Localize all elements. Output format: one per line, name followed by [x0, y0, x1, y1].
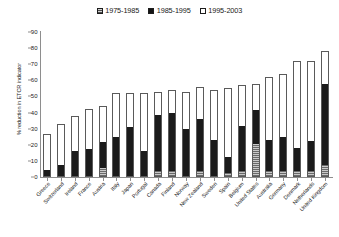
bar-segment-1985-1995 — [322, 84, 328, 165]
stacked-bar[interactable] — [293, 61, 301, 177]
stacked-bar[interactable] — [196, 87, 204, 177]
stacked-bar[interactable] — [126, 93, 134, 177]
bar-segment-1985-1995 — [239, 126, 245, 172]
bar-segment-1985-1995 — [197, 119, 203, 171]
bar-slot — [123, 32, 137, 177]
bar-slot — [110, 32, 124, 177]
y-axis-tick-mark — [28, 80, 31, 81]
stacked-bar[interactable] — [252, 84, 260, 177]
bar-slot — [54, 32, 68, 177]
bar-segment-1995-2003 — [211, 91, 217, 140]
bar-slot — [263, 32, 277, 177]
bar-slot — [221, 32, 235, 177]
stacked-bar[interactable] — [71, 116, 79, 177]
bar-segment-1995-2003 — [322, 52, 328, 84]
bar-segment-1975-1985 — [155, 171, 161, 176]
stacked-bar[interactable] — [321, 51, 329, 177]
y-axis-tick-label: 40 — [31, 110, 38, 116]
bar-segment-1985-1995 — [169, 113, 175, 171]
stacked-bar[interactable] — [112, 93, 120, 177]
bar-segment-1985-1995 — [225, 157, 231, 173]
stacked-bar[interactable] — [224, 88, 232, 177]
bar-segment-1995-2003 — [169, 91, 175, 113]
bar-segment-1985-1995 — [211, 140, 217, 176]
y-axis-tick-label: 30 — [31, 126, 38, 132]
grey-hatch-swatch-icon — [97, 8, 103, 14]
bar-segment-1975-1985 — [197, 171, 203, 176]
bar-segment-1995-2003 — [197, 88, 203, 120]
bar-slot — [40, 32, 54, 177]
bar-slot — [304, 32, 318, 177]
bar-slot — [235, 32, 249, 177]
legend-item-1995-2003: 1995-2003 — [200, 7, 243, 14]
stacked-bar[interactable] — [265, 77, 273, 177]
bar-segment-1985-1995 — [100, 142, 106, 169]
bar-slot — [290, 32, 304, 177]
y-axis-tick-label: 50 — [31, 93, 38, 99]
bar-segment-1995-2003 — [113, 94, 119, 136]
black-swatch-icon — [148, 8, 154, 14]
bar-segment-1995-2003 — [225, 89, 231, 157]
bar-segment-1985-1995 — [155, 115, 161, 172]
bar-segment-1975-1985 — [322, 165, 328, 176]
bar-segment-1975-1985 — [266, 171, 272, 176]
bar-segment-1985-1995 — [44, 170, 50, 176]
white-swatch-icon — [200, 8, 206, 14]
bar-segment-1985-1995 — [141, 151, 147, 176]
chart-legend: 1975-1985 1985-1995 1995-2003 — [0, 7, 339, 14]
bar-segment-1975-1985 — [308, 171, 314, 176]
bar-segment-1995-2003 — [280, 75, 286, 137]
bar-slot — [276, 32, 290, 177]
y-axis-tick-label: 10 — [31, 158, 38, 164]
stacked-bar[interactable] — [279, 74, 287, 177]
legend-label: 1995-2003 — [208, 7, 242, 14]
bar-slot — [151, 32, 165, 177]
y-axis-tick-mark — [28, 128, 31, 129]
x-axis-labels: GreeceSwitzerlandIrelandFranceAustriaIta… — [40, 180, 332, 236]
stacked-bar[interactable] — [182, 92, 190, 177]
stacked-bar[interactable] — [210, 90, 218, 177]
chart-container: 1975-1985 1985-1995 1995-2003 % reductio… — [0, 0, 339, 237]
stacked-bar[interactable] — [57, 124, 65, 177]
bar-segment-1995-2003 — [253, 85, 259, 110]
bar-slot — [193, 32, 207, 177]
y-axis-tick-label: 70 — [31, 61, 38, 67]
y-axis-tick-mark — [28, 112, 31, 113]
bar-slot — [165, 32, 179, 177]
bar-segment-1995-2003 — [308, 62, 314, 141]
bar-segment-1995-2003 — [127, 94, 133, 127]
stacked-bar[interactable] — [99, 106, 107, 177]
stacked-bar[interactable] — [140, 93, 148, 177]
stacked-bar[interactable] — [238, 85, 246, 177]
bar-slot — [179, 32, 193, 177]
bar-segment-1985-1995 — [183, 129, 189, 176]
bar-segment-1985-1995 — [113, 137, 119, 176]
y-axis-tick-mark — [28, 160, 31, 161]
y-axis-tick-label: 60 — [31, 77, 38, 83]
stacked-bar[interactable] — [307, 61, 315, 177]
legend-label: 1985-1995 — [157, 7, 191, 14]
bar-segment-1995-2003 — [44, 135, 50, 170]
bar-slot — [96, 32, 110, 177]
stacked-bar[interactable] — [43, 134, 51, 178]
stacked-bar[interactable] — [154, 92, 162, 177]
y-axis-tick-mark — [28, 144, 31, 145]
legend-label: 1975-1985 — [105, 7, 139, 14]
stacked-bar[interactable] — [168, 90, 176, 177]
x-label-slot: United Kingdom — [318, 180, 332, 236]
y-axis-tick-label: 80 — [31, 45, 38, 51]
bar-segment-1975-1985 — [280, 171, 286, 176]
stacked-bar[interactable] — [85, 109, 93, 177]
bar-segment-1985-1995 — [253, 110, 259, 145]
bar-segment-1985-1995 — [266, 140, 272, 172]
bar-segment-1995-2003 — [294, 62, 300, 148]
plot-area: 0102030405060708090 — [40, 32, 332, 177]
bar-slot — [68, 32, 82, 177]
y-axis-tick-label: 20 — [31, 142, 38, 148]
bar-segment-1985-1995 — [280, 137, 286, 172]
bar-slot — [82, 32, 96, 177]
bar-segment-1975-1985 — [100, 168, 106, 176]
bar-segment-1985-1995 — [72, 151, 78, 176]
bar-slot — [207, 32, 221, 177]
y-axis-tick-mark — [28, 64, 31, 65]
